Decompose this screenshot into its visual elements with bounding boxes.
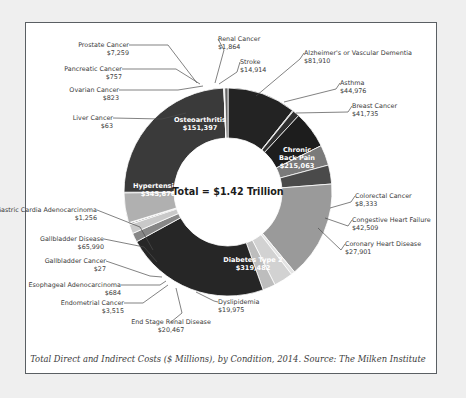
callout-label: Dyslipidemia$19,975	[218, 298, 259, 314]
callout-label: Renal Cancer$1,864	[218, 35, 261, 51]
donut-chart-figure: Prostate Cancer$7,259Pancreatic Cancer$7…	[0, 0, 466, 398]
callout-label: Esophageal Adenocarcinoma$684	[28, 281, 121, 297]
chart-caption: Total Direct and Indirect Costs ($ Milli…	[30, 354, 426, 364]
callout-label: Asthma$44,976	[340, 79, 366, 95]
callout-label: Congestive Heart Failure$42,509	[352, 216, 431, 232]
callout-label: Stroke$14,914	[240, 58, 266, 74]
leader-line	[284, 83, 340, 102]
callout-label: Endometrial Cancer$3,515	[61, 299, 125, 315]
leader-line	[330, 196, 355, 208]
callout-label: Breast Cancer$41,735	[352, 102, 397, 118]
callout-label: Colorectal Cancer$8,333	[355, 192, 412, 208]
callout-label: Ovarian Cancer$823	[69, 86, 119, 102]
callout-label: Prostate Cancer$7,259	[78, 41, 129, 57]
leader-line	[171, 288, 182, 322]
callout-label: Coronary Heart Disease$27,901	[345, 240, 421, 256]
leader-line	[219, 62, 240, 84]
callout-label: Gallbladder Cancer$27	[45, 257, 107, 273]
leader-line	[124, 285, 168, 303]
leader-line	[121, 281, 166, 285]
callout-label: Liver Cancer$63	[73, 114, 114, 130]
donut-chart-svg: Prostate Cancer$7,259Pancreatic Cancer$7…	[0, 0, 466, 398]
leader-line	[296, 106, 352, 113]
leader-line	[119, 86, 203, 90]
callout-label: Gallbladder Disease$65,990	[40, 235, 104, 251]
leader-line	[129, 45, 197, 83]
slice-inline-label: ChronicBack Pain$215,063	[279, 146, 315, 170]
callout-label: Alzheimer's or Vascular Dementia$81,910	[304, 49, 412, 65]
callout-label: Pancreatic Cancer$757	[64, 65, 122, 81]
callout-label: End Stage Renal Disease$20,467	[131, 318, 211, 334]
donut-slice[interactable]	[124, 88, 226, 192]
leader-line	[256, 53, 304, 96]
center-total-label: Total = $1.42 Trillion	[172, 186, 284, 197]
callout-label: Gastric Cardia Adenocarcinoma$1,256	[0, 206, 97, 222]
leader-line	[325, 218, 352, 226]
